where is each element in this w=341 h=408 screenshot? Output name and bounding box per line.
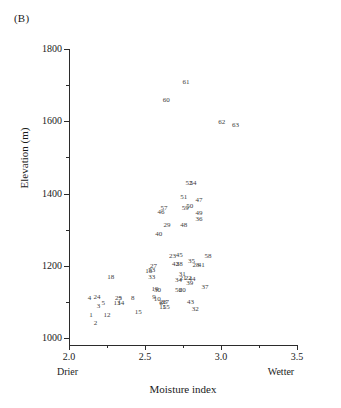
data-point: 53 bbox=[148, 267, 155, 274]
x-axis-high-annotation: Wetter bbox=[268, 366, 294, 377]
data-point: 25 bbox=[115, 295, 122, 302]
data-point: 4 bbox=[88, 294, 92, 301]
data-point: 55 bbox=[163, 303, 170, 310]
data-point: 18 bbox=[107, 274, 114, 281]
data-point: 29 bbox=[164, 222, 171, 229]
data-point: 51 bbox=[180, 194, 187, 201]
data-point: 34 bbox=[175, 277, 182, 284]
data-point: 56 bbox=[175, 287, 182, 294]
data-point: 30 bbox=[154, 287, 161, 294]
y-axis-title: Elevation (m) bbox=[18, 88, 30, 228]
x-axis-tick-minor bbox=[107, 345, 108, 348]
data-point: 58 bbox=[205, 252, 212, 259]
data-point: 2 bbox=[94, 319, 98, 326]
data-point: 45 bbox=[176, 251, 183, 258]
x-axis-tick-major bbox=[69, 345, 70, 350]
data-point: 63 bbox=[232, 121, 239, 128]
y-axis-tick-label: 1800 bbox=[22, 43, 62, 54]
x-axis-tick-minor bbox=[183, 345, 184, 348]
data-point: 12 bbox=[104, 311, 111, 318]
x-axis-tick-label: 2.5 bbox=[125, 351, 165, 362]
y-axis-tick-label: 1000 bbox=[22, 332, 62, 343]
data-point: 49 bbox=[196, 210, 203, 217]
data-point: 24 bbox=[94, 293, 101, 300]
x-axis-tick-label: 2.0 bbox=[49, 351, 89, 362]
x-axis-tick-major bbox=[145, 345, 146, 350]
data-point: 37 bbox=[202, 284, 209, 291]
x-axis-tick-major bbox=[297, 345, 298, 350]
data-point: 43 bbox=[187, 298, 194, 305]
data-point: 35 bbox=[188, 258, 195, 265]
data-point: 3 bbox=[97, 302, 101, 309]
data-point: 33 bbox=[148, 274, 155, 281]
data-point: 47 bbox=[196, 197, 203, 204]
data-point: 8 bbox=[131, 295, 135, 302]
data-point: 57 bbox=[161, 204, 168, 211]
scatter-plot-figure: (B) 100012001400160018002.02.53.03.5 Ele… bbox=[0, 0, 341, 408]
data-point: 5 bbox=[101, 300, 105, 307]
x-axis-tick-label: 3.5 bbox=[277, 351, 317, 362]
data-point: 59 bbox=[182, 204, 189, 211]
x-axis-title: Moisture index bbox=[69, 383, 297, 395]
data-point: 44 bbox=[189, 276, 196, 283]
data-point: 61 bbox=[183, 79, 190, 86]
data-point: 60 bbox=[163, 96, 170, 103]
data-point: 40 bbox=[155, 231, 162, 238]
data-point: 62 bbox=[218, 119, 225, 126]
y-axis-tick-major bbox=[64, 338, 69, 339]
x-axis-tick-minor bbox=[259, 345, 260, 348]
data-point: 54 bbox=[189, 180, 196, 187]
y-axis-tick-label: 1200 bbox=[22, 260, 62, 271]
data-point: 48 bbox=[180, 222, 187, 229]
data-point: 15 bbox=[135, 308, 142, 315]
data-point: 1 bbox=[89, 312, 93, 319]
panel-label: (B) bbox=[14, 12, 29, 24]
x-axis-tick-label: 3.0 bbox=[201, 351, 241, 362]
data-point: 32 bbox=[192, 306, 199, 313]
data-point: 41 bbox=[198, 261, 205, 268]
data-point: 42 bbox=[172, 260, 179, 267]
x-axis-low-annotation: Drier bbox=[57, 366, 78, 377]
x-axis-tick-major bbox=[221, 345, 222, 350]
